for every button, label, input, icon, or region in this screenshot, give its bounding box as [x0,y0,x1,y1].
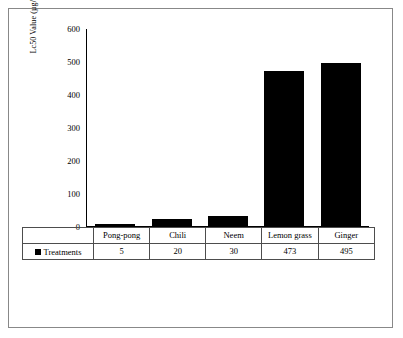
legend-label: Treatments [44,247,82,257]
y-tick-400: 400 [67,91,80,100]
chart-page: Lc50 Value (µg/ml) 600 500 400 300 200 1… [0,0,403,338]
table-header-neem: Neem [206,228,262,244]
data-table: Pong-pong Chili Neem Lemon grass Ginger … [22,227,375,260]
table-value-pong-pong: 5 [94,244,150,260]
y-tick-200: 200 [67,157,80,166]
y-tick-600: 600 [67,25,80,34]
y-tick-100: 100 [67,190,80,199]
table-header-lemon-grass: Lemon grass [262,228,318,244]
table-header-pong-pong: Pong-pong [94,228,150,244]
bar-slot-pong-pong [87,29,143,226]
axes [86,29,369,227]
bar-chili [152,219,192,226]
bar-slot-chili [143,29,199,226]
table-value-chili: 20 [150,244,206,260]
table-row-headers: Pong-pong Chili Neem Lemon grass Ginger [23,228,375,244]
table-corner-cell [23,228,94,244]
bar-slot-neem [200,29,256,226]
plot-area: Lc50 Value (µg/ml) 600 500 400 300 200 1… [31,29,376,251]
bar-pong-pong [95,224,135,226]
table-header-ginger: Ginger [318,228,374,244]
bar-lemon-grass [264,71,304,226]
bar-neem [208,216,248,226]
table-value-neem: 30 [206,244,262,260]
bar-series [87,29,369,226]
figure-border: Lc50 Value (µg/ml) 600 500 400 300 200 1… [8,8,393,328]
legend-swatch-icon [35,249,41,255]
y-axis-label: Lc50 Value (µg/ml) [29,0,38,81]
bar-ginger [321,63,361,226]
table-value-ginger: 495 [318,244,374,260]
table-value-lemon-grass: 473 [262,244,318,260]
bar-slot-ginger [313,29,369,226]
y-axis-ticks: 600 500 400 300 200 100 0 [49,29,83,227]
y-tick-300: 300 [67,124,80,133]
legend-entry-treatments: Treatments [23,244,94,260]
table-header-chili: Chili [150,228,206,244]
table-row-values: Treatments 5 20 30 473 495 [23,244,375,260]
y-tick-500: 500 [67,58,80,67]
bar-slot-lemon-grass [256,29,312,226]
